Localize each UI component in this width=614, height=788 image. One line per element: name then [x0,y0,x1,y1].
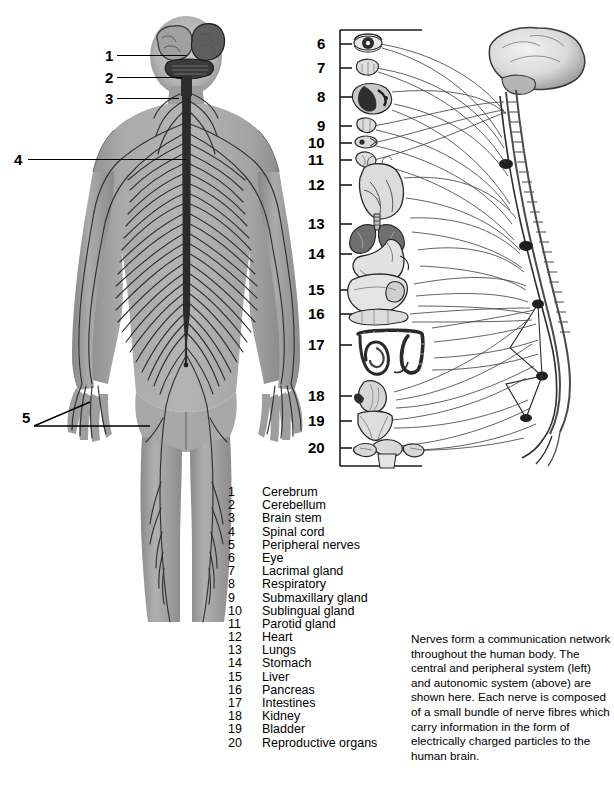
leader-line-4 [28,159,186,160]
legend-list: 1 Cerebrum 2 Cerebellum 3 Brain stem 4 S… [228,486,414,750]
callout-number-14: 14 [308,246,325,261]
leader-lines-5 [32,400,162,450]
legend-number: 10 [228,605,254,618]
vertebral-column [499,90,570,466]
legend-label: Liver [262,671,289,684]
callout-number-5: 5 [22,410,30,425]
callout-number-10: 10 [308,135,325,150]
legend-number: 20 [228,737,254,750]
list-item: 5 Peripheral nerves [228,539,414,552]
leader-line-1 [117,55,187,56]
organ-pancreas [349,309,408,325]
legend-number: 4 [228,526,254,539]
callout-number-3: 3 [105,91,113,106]
legend-label: Bladder [262,723,305,736]
organ-kidney [354,381,386,413]
list-item: 9 Submaxillary gland [228,592,414,605]
list-item: 8 Respiratory [228,578,414,591]
caption-block: Nerves form a communication network thro… [411,632,611,763]
figure-autonomic-nervous-system: 6 7 8 9 10 11 12 13 14 15 16 17 18 19 20 [330,18,614,478]
legend-number: 19 [228,723,254,736]
callout-number-20: 20 [308,440,325,455]
organ-respiratory [352,84,391,115]
callout-number-16: 16 [308,306,325,321]
organ-submaxillary-gland [357,118,376,133]
legend-number: 5 [228,539,254,552]
legend-label: Spinal cord [262,526,325,539]
callout-number-13: 13 [308,216,325,231]
legend-label: Stomach [262,657,311,670]
list-item: 20 Reproductive organs [228,737,414,750]
callout-number-8: 8 [317,89,325,104]
list-item: 11 Parotid gland [228,618,414,631]
organ-bladder [358,411,392,440]
callout-number-7: 7 [317,60,325,75]
brain-lateral [489,28,584,95]
callout-number-2: 2 [105,70,113,85]
diagram-page: 1 2 3 4 5 [0,0,614,788]
list-item: 18 Kidney [228,710,414,723]
legend-number: 15 [228,671,254,684]
legend-number: 14 [228,657,254,670]
caption-text: Nerves form a communication network thro… [411,632,611,763]
list-item: 10 Sublingual gland [228,605,414,618]
leader-line-2 [117,77,182,78]
list-item: 16 Pancreas [228,684,414,697]
callout-number-17: 17 [308,337,325,352]
callout-number-15: 15 [308,282,325,297]
legend-label: Respiratory [262,578,326,591]
list-item: 13 Lungs [228,644,414,657]
legend-label: Reproductive organs [262,737,377,750]
legend-number: 8 [228,578,254,591]
legend-number: 9 [228,592,254,605]
organ-lacrimal-gland [356,59,378,75]
legend-label: Peripheral nerves [262,539,360,552]
callout-number-11: 11 [308,152,324,167]
legend-label: Brain stem [262,512,322,525]
legend-number: 3 [228,512,254,525]
organ-sublingual-gland [355,136,377,148]
callout-number-4: 4 [14,152,22,167]
organ-eye [354,34,382,52]
callout-number-9: 9 [317,118,325,133]
right-figure-artwork [330,18,614,478]
leader-line-3 [117,98,179,99]
list-item: 17 Intestines [228,697,414,710]
list-item: 14 Stomach [228,657,414,670]
legend-label: Submaxillary gland [262,592,368,605]
organ-intestines [354,330,426,374]
callout-number-6: 6 [317,36,325,51]
legend-label: Sublingual gland [262,605,354,618]
callout-number-12: 12 [308,177,325,192]
list-item: 12 Heart [228,631,414,644]
list-item: 19 Bladder [228,723,414,736]
callout-number-18: 18 [308,388,325,403]
list-item: 3 Brain stem [228,512,414,525]
callout-number-19: 19 [308,413,325,428]
callout-number-1: 1 [105,48,113,63]
list-item: 4 Spinal cord [228,526,414,539]
list-item: 15 Liver [228,671,414,684]
organ-reproductive-organs [353,440,424,468]
organ-liver [348,274,408,314]
